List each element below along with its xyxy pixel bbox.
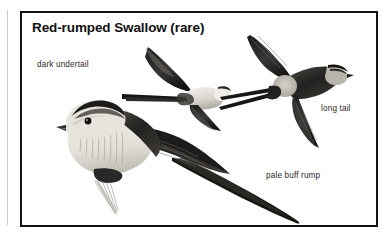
bird-illustration-group <box>22 13 376 225</box>
page-title: Red-rumped Swallow (rare) <box>32 20 204 35</box>
callout-dark-undertail: dark undertail <box>37 60 89 69</box>
illustration-plate: Red-rumped Swallow (rare) dark undertail… <box>20 11 378 227</box>
page-margin-rule <box>7 10 8 225</box>
callout-long-tail: long tail <box>321 104 351 113</box>
figure-perched-swallow <box>56 100 299 223</box>
callout-pale-buff-rump: pale buff rump <box>266 171 320 180</box>
figure-flying-upperside <box>219 35 354 148</box>
